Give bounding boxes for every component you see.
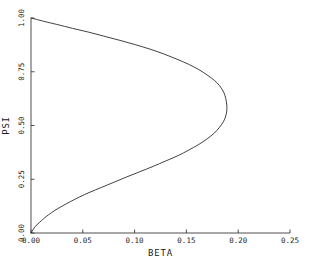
y-axis-title: PSI: [1, 116, 11, 135]
x-tick-label: 0.10: [126, 236, 145, 245]
x-tick-label: 0.20: [229, 236, 248, 245]
y-axis-tick-labels: 0.000.250.500.751.00: [17, 8, 26, 242]
y-tick-label: 0.25: [17, 170, 26, 188]
y-axis-tick-group: [31, 18, 35, 233]
x-axis-tick-labels: 0.000.050.100.150.200.25: [22, 236, 299, 245]
y-tick-label: 0.50: [17, 116, 26, 135]
x-tick-label: 0.05: [74, 236, 92, 245]
x-tick-label: 0.15: [177, 236, 195, 245]
y-tick-label: 0.75: [17, 63, 26, 81]
chart-figure: 0.000.050.100.150.200.25 0.000.250.500.7…: [0, 0, 310, 260]
x-axis-title: BETA: [148, 248, 173, 258]
x-axis-tick-group: [31, 230, 290, 234]
x-tick-label: 0.25: [281, 236, 299, 245]
y-tick-label: 0.00: [17, 223, 26, 242]
plot-canvas: 0.000.050.100.150.200.25 0.000.250.500.7…: [0, 0, 310, 260]
y-tick-label: 1.00: [17, 8, 26, 27]
beta-psi-curve: [31, 18, 227, 233]
